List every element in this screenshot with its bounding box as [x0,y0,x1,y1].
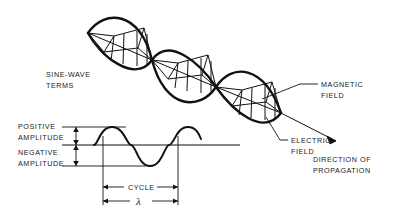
negative-amplitude-label-line1: NEGATIVE [18,148,58,157]
sine-wave-terms-diagram: CYCLE λ POSITIVE AMPLITUDE NEGATIVE AMPL… [18,122,240,207]
magnetic-field-label-line2: FIELD [321,91,344,100]
em-wave-figure: SINE-WAVE TERMS MAGNETIC FIELD ELECTRIC … [0,0,406,217]
sine-wave-terms-label-line2: TERMS [46,81,74,90]
electric-field-label-line1: ELECTRIC [291,136,331,145]
direction-label-line2: PROPAGATION [313,166,371,175]
positive-amplitude-label-line1: POSITIVE [18,122,56,131]
electric-field-label-line2: FIELD [291,147,314,156]
amplitude-axis [73,127,79,166]
wavelength-label: λ [135,195,141,207]
sine-wave-curve [94,127,201,166]
negative-amplitude-label-line2: AMPLITUDE [18,159,64,168]
electric-field-leader [266,117,288,140]
sine-wave-terms-label-line1: SINE-WAVE [46,70,90,79]
electric-field-wave [88,33,281,123]
magnetic-field-label-line1: MAGNETIC [321,80,363,89]
cycle-label: CYCLE [128,183,155,192]
em-wave-illustration [88,18,336,144]
direction-label-line1: DIRECTION OF [313,155,371,164]
positive-amplitude-label-line2: AMPLITUDE [18,133,64,142]
